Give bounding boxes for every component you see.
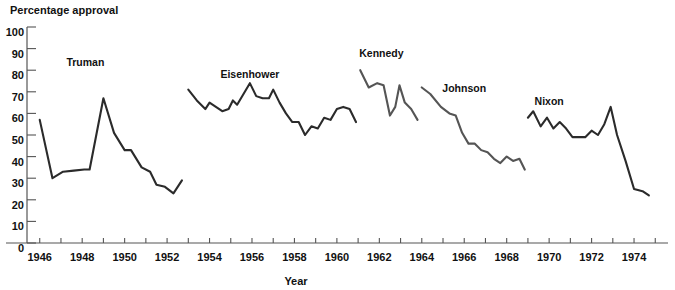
x-axis-title: Year: [284, 275, 308, 287]
x-tick-label: 1964: [410, 251, 435, 263]
y-tick-label: 0: [18, 242, 24, 254]
series-label: Truman: [66, 56, 104, 68]
series-label: Johnson: [442, 82, 486, 94]
y-tick-label: 80: [12, 69, 24, 81]
y-tick-label: 50: [12, 134, 24, 146]
x-tick-label: 1948: [70, 251, 94, 263]
series-line: [528, 107, 649, 196]
x-tick-label: 1974: [622, 251, 647, 263]
y-tick-label: 40: [12, 156, 24, 168]
y-tick-label: 20: [12, 199, 24, 211]
series-line: [422, 87, 525, 169]
series-lines: [40, 70, 649, 195]
approval-ratings-chart: 1009080706050403020100 19461948195019521…: [0, 0, 675, 290]
series-labels: TrumanEisenhowerKennedyJohnsonNixon: [66, 47, 563, 107]
x-tick-label: 1962: [367, 251, 391, 263]
series-line: [40, 98, 182, 193]
y-tick-label: 30: [12, 177, 24, 189]
y-tick-label: 70: [12, 91, 24, 103]
x-tick-label: 1954: [197, 251, 222, 263]
y-tick-label: 60: [12, 112, 24, 124]
x-tick-label: 1960: [325, 251, 349, 263]
y-tick-label: 10: [12, 220, 24, 232]
series-line: [360, 70, 417, 120]
series-label: Kennedy: [359, 47, 404, 59]
y-axis-title: Percentage approval: [10, 4, 118, 16]
x-axis: 1946194819501952195419561958196019621964…: [6, 238, 668, 263]
x-tick-label: 1972: [579, 251, 603, 263]
x-tick-label: 1950: [112, 251, 136, 263]
y-tick-label: 90: [12, 48, 24, 60]
x-tick-label: 1956: [240, 251, 264, 263]
series-line: [188, 83, 356, 135]
x-tick-label: 1946: [27, 251, 51, 263]
y-tick-label: 100: [6, 26, 24, 38]
x-tick-label: 1966: [452, 251, 476, 263]
x-tick-label: 1952: [155, 251, 179, 263]
chart-canvas: 1009080706050403020100 19461948195019521…: [0, 0, 675, 290]
x-tick-label: 1958: [282, 251, 306, 263]
series-label: Nixon: [535, 95, 564, 107]
x-tick-label: 1970: [537, 251, 561, 263]
x-tick-label: 1968: [494, 251, 518, 263]
y-axis: 1009080706050403020100: [6, 26, 36, 254]
series-label: Eisenhower: [220, 68, 279, 80]
